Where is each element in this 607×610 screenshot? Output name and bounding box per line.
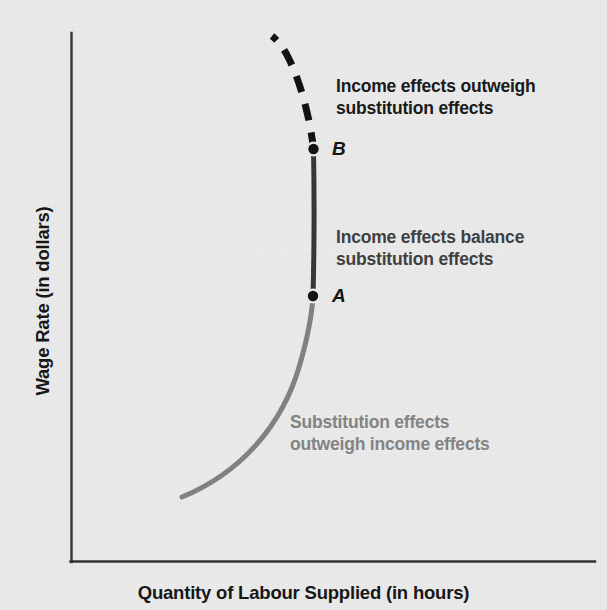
annotation-substitution-effects-outweigh: Substitution effects outweigh income eff… bbox=[290, 411, 490, 456]
point-marker-a[interactable] bbox=[308, 291, 318, 301]
point-marker-b[interactable] bbox=[308, 144, 318, 154]
curve-segment-income-dashed bbox=[272, 36, 314, 149]
point-label-a: A bbox=[332, 285, 346, 307]
x-axis-title: Quantity of Labour Supplied (in hours) bbox=[0, 582, 607, 604]
chart-figure: Income effects outweigh substitution eff… bbox=[0, 0, 607, 610]
curve-segment-balance bbox=[313, 149, 314, 296]
curve-segment-substitution bbox=[182, 296, 313, 497]
y-axis-title: Wage Rate (in dollars) bbox=[32, 171, 54, 431]
annotation-income-effects-outweigh: Income effects outweigh substitution eff… bbox=[336, 75, 536, 120]
point-label-b: B bbox=[332, 138, 346, 160]
annotation-income-effects-balance: Income effects balance substitution effe… bbox=[336, 226, 524, 271]
